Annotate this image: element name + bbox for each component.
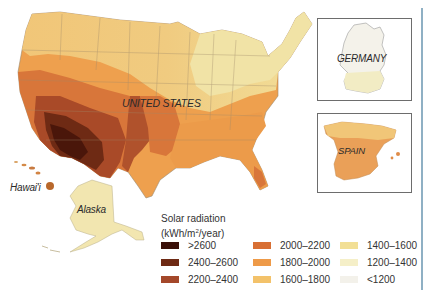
- swatch-6: [340, 242, 358, 249]
- legend-item: 1200–1400: [340, 255, 417, 269]
- legend: Solar radiation (kWh/m2/year) >2600 2400…: [161, 213, 225, 240]
- swatch-1: [161, 259, 179, 266]
- alaska-shape: [42, 180, 144, 252]
- legend-title: Solar radiation (kWh/m2/year): [161, 213, 225, 240]
- label-germany: GERMANY: [337, 53, 386, 64]
- legend-item: 2000–2200: [253, 238, 330, 252]
- swatch-3: [253, 242, 271, 249]
- legend-item: 2200–2400: [161, 272, 238, 286]
- swatch-5: [253, 276, 271, 283]
- legend-item: <1200: [340, 272, 395, 286]
- legend-item: 1800–2000: [253, 255, 330, 269]
- swatch-2: [161, 276, 179, 283]
- legend-item: >2600: [161, 238, 216, 252]
- legend-item: 2400–2600: [161, 255, 238, 269]
- label-alaska: Alaska: [77, 204, 106, 215]
- label-hawaii: Hawai'i: [10, 182, 41, 193]
- swatch-4: [253, 259, 271, 266]
- label-united-states: UNITED STATES: [122, 97, 201, 109]
- label-spain: SPAIN: [338, 145, 365, 156]
- legend-item: 1400–1600: [340, 238, 417, 252]
- legend-title-text: Solar radiation: [161, 213, 225, 225]
- page-side-rule: [421, 8, 423, 290]
- swatch-8: [340, 276, 358, 283]
- swatch-0: [161, 242, 179, 249]
- legend-item: 1600–1800: [253, 272, 330, 286]
- swatch-7: [340, 259, 358, 266]
